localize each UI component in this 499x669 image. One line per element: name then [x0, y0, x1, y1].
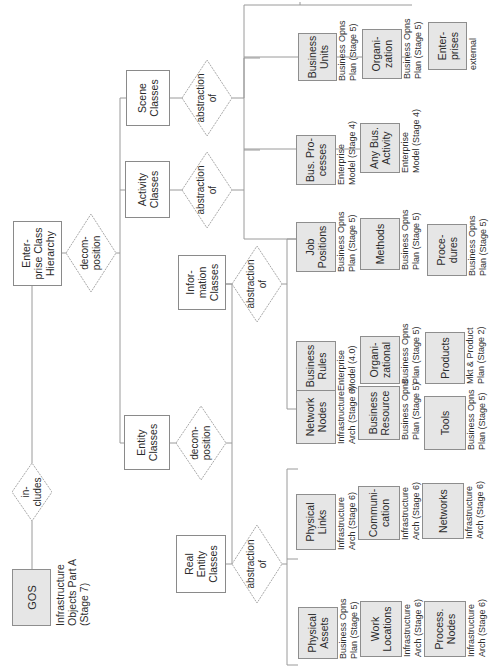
leaf-any-business-activity-note: Enterprise Model (Stage 4) [400, 93, 422, 173]
leaf-network-nodes-note: Infrastructure Arch (Stage 6) [336, 364, 358, 444]
leaf-physical-assets[interactable]: Physical Assets [298, 607, 338, 659]
leaf-business-processes-note: Enterprise Model (Stage 4) [336, 105, 358, 185]
leaf-process-nodes[interactable]: Process. Nodes [424, 601, 466, 657]
leaf-business-rules[interactable]: Business Rules [296, 341, 336, 391]
leaf-organization-note: Business Opns Plan (Stage 5) [402, 0, 424, 79]
leaf-business-processes[interactable]: Bus. Pro- cesses [296, 135, 336, 185]
leaf-job-positions-note: Business Opns Plan (Stage 5) [336, 192, 358, 272]
leaf-tools-note: Business Opns Plan (Stage 5) [466, 370, 488, 450]
leaf-procedures[interactable]: Proce- dures [427, 224, 467, 276]
leaf-networks[interactable]: Networks [422, 483, 464, 539]
leaf-enterprises[interactable]: Enter- prises [428, 22, 467, 70]
leaf-products[interactable]: Products [425, 332, 465, 384]
leaf-job-positions[interactable]: Job Positions [296, 222, 336, 272]
enterprise-class-hierarchy-diagram: Enter- prise Class Hierarchy GOS Infrast… [0, 0, 499, 669]
leaf-organizational[interactable]: Organi- zational [360, 336, 400, 384]
leaf-work-locations[interactable]: Work Locations [360, 601, 402, 657]
leaf-procedures-note: Business Opns Plan (Stage 5) [467, 196, 489, 276]
leaf-any-business-activity[interactable]: Any Bus. Activity [360, 123, 400, 173]
leaf-work-locations-note: Infrastructure Arch (Stage 6) [402, 577, 424, 657]
leaf-tools[interactable]: Tools [424, 396, 466, 450]
leaf-methods-note: Business Opns Plan (Stage 5) [400, 190, 422, 270]
leaf-process-nodes-note: Infrastructure Arch (Stage 6) [466, 577, 488, 657]
leaf-network-nodes[interactable]: Network Nodes [296, 390, 336, 444]
leaf-business-resource-note: Business Opns Plan (Stage 5) [400, 360, 422, 440]
leaf-business-units-note: Business Opns Plan (Stage 5) [337, 1, 359, 81]
leaf-methods[interactable]: Methods [360, 218, 400, 270]
leaf-enterprises-note: external [468, 10, 479, 70]
leaf-business-resource[interactable]: Business Resource [358, 386, 400, 440]
leaf-communication-note: Infrastructure Arch (Stage 6) [400, 460, 422, 540]
leaf-physical-assets-note: Business Opns Plan (Stage 5) [338, 579, 360, 659]
leaf-organization[interactable]: Organi- zation [362, 29, 402, 79]
leaf-business-units[interactable]: Business Units [298, 33, 337, 81]
leaf-physical-links-note: Infrastructure Arch (Stage 6) [336, 470, 358, 550]
leaf-networks-note: Infrastructure Arch (Stage 6) [464, 459, 486, 539]
leaf-communication[interactable]: Communi- cation [358, 486, 400, 540]
leaf-physical-links[interactable]: Physical Links [296, 494, 336, 550]
